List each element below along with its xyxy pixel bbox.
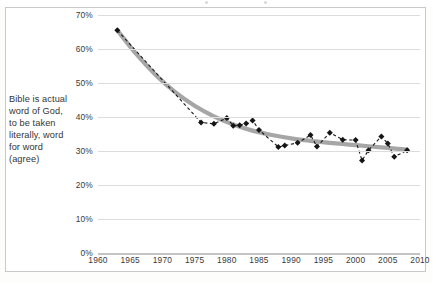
x-axis-tick-label: 1990 [281,255,300,265]
x-axis-tick-label: 1985 [249,255,268,265]
data-point-marker [378,133,384,139]
x-axis-tick-label: 2010 [410,255,429,265]
gridline-y [98,151,420,152]
data-point-marker [391,154,397,160]
scan-speck [264,1,267,4]
y-axis-tick-label: 40% [76,112,93,122]
chart-figure: Bible is actual word of God, to be taken… [0,0,433,283]
data-point-marker [308,132,314,138]
y-axis-tick-label: 70% [76,10,93,20]
x-axis-tick-label: 1995 [314,255,333,265]
category-label: Bible is actual word of God, to be taken… [9,93,71,166]
y-axis-tick-label: 30% [76,146,93,156]
scan-artifact-band [0,0,433,6]
x-axis-tick-label: 2005 [378,255,397,265]
gridline-y [98,117,420,118]
x-axis-tick-label: 1965 [120,255,139,265]
x-axis-tick-label: 1970 [153,255,172,265]
x-axis-tick-label: 1980 [217,255,236,265]
gridline-y [98,49,420,50]
data-point-marker [327,130,333,136]
gridline-y [98,83,420,84]
data-point-marker [314,144,320,150]
series-canvas [98,15,420,253]
gridline-y [98,185,420,186]
data-point-marker [250,117,256,123]
y-axis-tick-label: 20% [76,180,93,190]
scan-speck [205,1,208,4]
y-axis-tick-label: 60% [76,44,93,54]
data-point-marker [359,158,365,164]
data-point-marker [282,143,288,149]
x-axis-tick-label: 2000 [346,255,365,265]
gridline-y [98,15,420,16]
data-point-marker [353,137,359,143]
plot-area: 0%10%20%30%40%50%60%70%19601965197019751… [98,15,420,253]
data-point-marker [211,121,217,127]
x-axis-tick-label: 1960 [88,255,107,265]
gridline-y [98,219,420,220]
y-axis-tick-label: 10% [76,214,93,224]
y-axis-tick-label: 50% [76,78,93,88]
x-axis-tick-label: 1975 [185,255,204,265]
data-point-marker [243,120,249,126]
data-point-marker [198,119,204,125]
